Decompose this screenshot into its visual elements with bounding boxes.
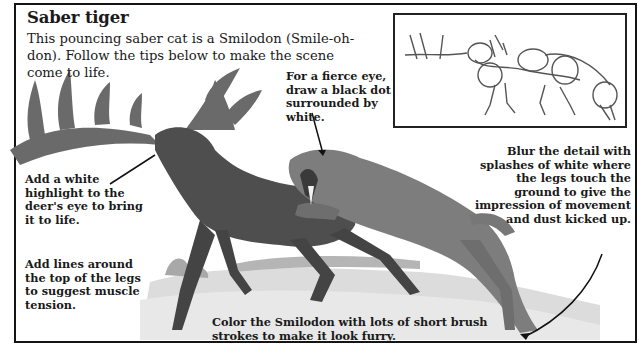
tip-blur-detail: Blur the detail with splashes of white w… [474, 145, 631, 227]
deer-antlers [10, 68, 262, 165]
construction-sketch [393, 13, 627, 128]
tip-deer-eye: Add a white highlight to the deer's eye … [25, 173, 145, 227]
sketch-drawing [395, 15, 625, 126]
tip-leg-muscles: Add lines around the top of the legs to … [25, 258, 150, 312]
tip-fierce-eye: For a fierce eye, draw a black dot surro… [286, 70, 416, 124]
tip-fur-strokes: Color the Smilodon with lots of short br… [212, 316, 492, 343]
page-title: Saber tiger [27, 8, 129, 27]
